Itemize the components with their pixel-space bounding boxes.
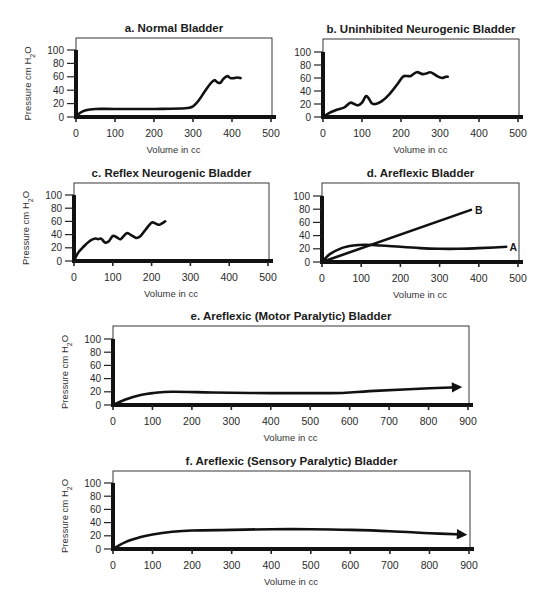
x-tick-label: 100 <box>352 272 370 284</box>
y-tick-label: 80 <box>53 58 65 69</box>
y-tick-label: 100 <box>293 191 310 202</box>
chart-panel-e: e. Areflexic (Motor Paralytic) Bladder02… <box>59 310 477 443</box>
x-tick-label: 300 <box>431 127 449 139</box>
y-tick-label: 60 <box>90 360 102 371</box>
x-tick-label: 600 <box>341 415 359 427</box>
y-tick-label: 100 <box>84 334 101 345</box>
y-tick-label: 60 <box>300 73 312 84</box>
y-tick-label: 40 <box>53 85 65 96</box>
x-tick-label: 700 <box>380 415 398 427</box>
x-tick-label: 0 <box>110 415 116 427</box>
y-tick-label: 20 <box>300 99 312 110</box>
y-tick-label: 80 <box>299 204 311 215</box>
series-label-b: B <box>475 204 483 216</box>
x-tick-label: 500 <box>509 127 527 139</box>
x-tick-label: 100 <box>144 415 162 427</box>
y-tick-label: 100 <box>45 190 62 201</box>
series-line-uninhibited <box>323 72 448 117</box>
series-label-a: A <box>509 241 517 253</box>
chart-panel-f: f. Areflexic (Sensory Paralytic) Bladder… <box>59 455 478 587</box>
y-tick-label: 80 <box>51 203 63 214</box>
x-tick-label: 500 <box>302 559 320 571</box>
x-axis-label: Volume in cc <box>394 144 448 155</box>
series-line-motor-paralytic <box>113 387 458 405</box>
y-tick-label: 40 <box>90 517 102 528</box>
y-axis-label: Pressure cm H2O <box>59 479 73 553</box>
chart-title: a. Normal Bladder <box>125 22 224 34</box>
x-tick-label: 200 <box>183 415 201 427</box>
x-axis-label: Volume in cc <box>144 288 198 299</box>
y-tick-label: 0 <box>58 112 64 123</box>
y-tick-label: 60 <box>90 504 102 515</box>
y-tick-label: 20 <box>90 386 102 397</box>
x-tick-label: 200 <box>392 127 410 139</box>
x-tick-label: 800 <box>421 559 439 571</box>
y-tick-label: 60 <box>51 216 63 227</box>
x-tick-label: 300 <box>431 272 449 284</box>
chart-title: f. Areflexic (Sensory Paralytic) Bladder <box>186 455 398 467</box>
y-tick-label: 20 <box>53 98 65 109</box>
plot-frame <box>323 39 519 117</box>
x-tick-label: 400 <box>470 127 488 139</box>
y-tick-label: 100 <box>47 45 64 56</box>
x-tick-label: 200 <box>145 127 163 139</box>
y-axis-label: Pressure cm H2O <box>22 46 36 120</box>
y-tick-label: 80 <box>90 491 102 502</box>
x-tick-label: 100 <box>106 127 124 139</box>
y-tick-label: 40 <box>90 373 102 384</box>
series-line-normal <box>76 76 241 117</box>
x-axis-label: Volume in cc <box>264 576 318 587</box>
x-tick-label: 900 <box>459 415 477 427</box>
x-tick-label: 0 <box>73 127 79 139</box>
y-tick-label: 40 <box>299 230 311 241</box>
chart-panel-a: a. Normal Bladder02040608010001002003004… <box>22 22 280 155</box>
x-tick-label: 200 <box>183 559 201 571</box>
x-axis-label: Volume in cc <box>147 144 201 155</box>
chart-panel-d: d. Areflexic Bladder02040608010001002003… <box>293 167 527 300</box>
x-tick-label: 500 <box>509 272 527 284</box>
bladder-cystometrogram-figure: a. Normal Bladder02040608010001002003004… <box>0 0 556 606</box>
y-tick-label: 40 <box>300 86 312 97</box>
y-tick-label: 40 <box>51 229 63 240</box>
x-tick-label: 300 <box>223 559 241 571</box>
plot-frame <box>76 38 272 117</box>
chart-title: b. Uninhibited Neurogenic Bladder <box>326 23 516 35</box>
plot-frame <box>74 183 269 261</box>
y-tick-label: 0 <box>305 112 311 123</box>
x-tick-label: 300 <box>223 415 241 427</box>
chart-title: d. Areflexic Bladder <box>367 167 475 179</box>
x-tick-label: 300 <box>182 271 200 283</box>
y-tick-label: 100 <box>84 478 101 489</box>
x-tick-label: 100 <box>353 127 371 139</box>
y-tick-label: 0 <box>95 400 101 411</box>
x-tick-label: 200 <box>143 271 161 283</box>
chart-title: c. Reflex Neurogenic Bladder <box>92 167 252 179</box>
y-tick-label: 20 <box>90 530 102 541</box>
x-tick-label: 400 <box>223 127 241 139</box>
x-tick-label: 0 <box>320 127 326 139</box>
x-tick-label: 300 <box>184 127 202 139</box>
x-tick-label: 600 <box>342 559 360 571</box>
y-tick-label: 60 <box>53 71 65 82</box>
series-line-reflex <box>74 221 165 261</box>
x-tick-label: 400 <box>262 415 280 427</box>
y-tick-label: 100 <box>294 47 311 58</box>
x-tick-label: 500 <box>259 271 277 283</box>
x-tick-label: 400 <box>262 559 280 571</box>
y-tick-label: 20 <box>51 242 63 253</box>
x-tick-label: 800 <box>420 415 438 427</box>
x-tick-label: 100 <box>144 559 162 571</box>
x-tick-label: 0 <box>71 271 77 283</box>
y-axis-label: Pressure cm H2O <box>59 335 73 409</box>
y-tick-label: 80 <box>300 60 312 71</box>
y-tick-label: 0 <box>95 544 101 555</box>
x-tick-label: 400 <box>470 272 488 284</box>
y-tick-label: 80 <box>90 347 102 358</box>
series-line-b <box>322 210 471 262</box>
chart-title: e. Areflexic (Motor Paralytic) Bladder <box>191 310 392 322</box>
x-tick-label: 0 <box>110 559 116 571</box>
y-tick-label: 0 <box>56 256 62 267</box>
chart-panel-b: b. Uninhibited Neurogenic Bladder0204060… <box>294 23 527 155</box>
plot-frame <box>322 183 519 262</box>
x-tick-label: 900 <box>460 559 478 571</box>
